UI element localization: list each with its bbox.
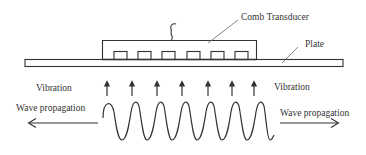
vibration-arrow-icon — [252, 82, 256, 97]
wave-propagation-label-right: Wave propagation — [280, 109, 349, 119]
vibration-arrows — [105, 82, 256, 97]
comb-transducer-body — [103, 41, 257, 60]
left-propagation-arrow-icon — [29, 119, 99, 128]
plate-leader — [282, 47, 298, 63]
plate-label: Plate — [305, 40, 324, 50]
right-propagation-arrow-icon — [280, 119, 339, 128]
diagram-drawing — [0, 0, 366, 155]
plate — [25, 60, 343, 67]
comb-transducer-label: Comb Transducer — [241, 13, 309, 23]
comb-teeth — [114, 52, 248, 60]
comb-transducer-diagram: Comb Transducer Plate Vibration Vibratio… — [0, 0, 366, 155]
vibration-arrow-icon — [206, 82, 210, 97]
vibration-arrow-icon — [105, 82, 109, 97]
vibration-arrow-icon — [230, 82, 234, 97]
vibration-label-left: Vibration — [36, 84, 72, 94]
wire-lead-icon — [171, 24, 176, 41]
wave-propagation-label-left: Wave propagation — [16, 104, 85, 114]
wave-sine — [103, 102, 274, 140]
vibration-arrow-icon — [180, 82, 184, 97]
vibration-arrow-icon — [130, 82, 134, 97]
vibration-arrow-icon — [155, 82, 159, 97]
comb-transducer-leader — [208, 20, 238, 43]
vibration-label-right: Vibration — [274, 83, 310, 93]
